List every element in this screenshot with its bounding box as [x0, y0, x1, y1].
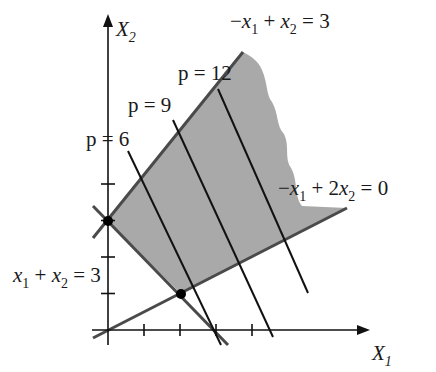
y-axis-label: X2 — [115, 17, 136, 45]
isoprofit-label-p9: p = 9 — [128, 93, 171, 117]
x-axis-arrow-icon — [357, 325, 370, 335]
optimal-point-2-1 — [176, 289, 186, 299]
lp-graph: X2 X1 p = 6 p = 9 p = 12 −x1 + x2 = 3 −x… — [0, 0, 436, 372]
constraint-label-c2: −x1 + 2x2 = 0 — [278, 176, 388, 204]
corner-point-0-3 — [103, 216, 113, 226]
isoprofit-label-p12: p = 12 — [178, 61, 232, 85]
isoprofit-label-p6: p = 6 — [86, 127, 129, 151]
y-axis-arrow-icon — [103, 14, 113, 27]
constraint-label-c1: −x1 + x2 = 3 — [230, 9, 330, 37]
lp-diagram: X2 X1 p = 6 p = 9 p = 12 −x1 + x2 = 3 −x… — [0, 0, 436, 372]
x-axis-label: X1 — [371, 341, 392, 369]
constraint-label-c3: x1 + x2 = 3 — [12, 263, 101, 291]
